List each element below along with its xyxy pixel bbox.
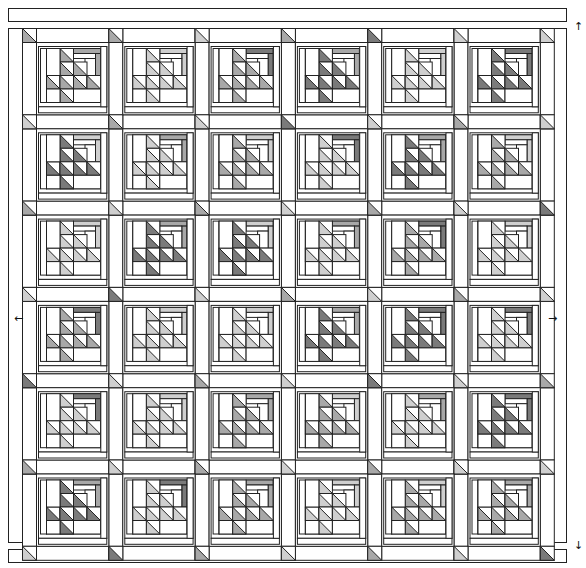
field-cell (133, 49, 147, 76)
field-cell (392, 480, 406, 507)
sashing-vertical (23, 388, 37, 460)
sashing-horizontal (468, 546, 540, 560)
right-log (187, 478, 193, 538)
block-bottom-strip (297, 366, 365, 372)
log-bar-right (96, 140, 101, 162)
right-log (187, 133, 193, 193)
sashing-vertical (454, 129, 468, 201)
left-log (386, 49, 392, 103)
field-cell (47, 307, 61, 334)
field-cell (74, 521, 101, 535)
block-bottom-strip (384, 538, 452, 544)
log-inner (332, 485, 354, 490)
field-cell (219, 135, 233, 162)
field-cell (47, 480, 61, 507)
sashing-vertical (368, 43, 382, 115)
log-bar-top (419, 221, 446, 226)
sashing-vertical (454, 215, 468, 287)
sashing-vertical (195, 215, 209, 287)
sashing-vertical (281, 215, 295, 287)
sashing-vertical (540, 129, 554, 201)
field-cell (478, 480, 492, 507)
field-cell (392, 89, 406, 103)
log-bar-right (96, 54, 101, 76)
right-log (360, 219, 366, 279)
log-bar-top (246, 480, 273, 485)
log-inner (505, 226, 527, 231)
right-log (446, 392, 452, 452)
quilt-layer (9, 9, 567, 563)
sashing-horizontal (37, 201, 109, 215)
log-inner (246, 399, 268, 404)
field-cell (505, 521, 532, 535)
field-cell (305, 521, 319, 535)
log-inner (246, 312, 268, 317)
log-bar-top (160, 480, 187, 485)
field-cell (305, 89, 319, 103)
left-log (386, 221, 392, 275)
log-inner (160, 485, 182, 490)
sashing-vertical (368, 301, 382, 373)
block-bottom-strip (125, 366, 193, 372)
field-cell (246, 434, 273, 448)
log-bar-top (505, 135, 532, 140)
block-bottom-strip (125, 538, 193, 544)
field-cell (505, 175, 532, 189)
field-cell (419, 434, 446, 448)
log-inner (419, 54, 441, 59)
log-inner (332, 312, 354, 317)
field-cell (478, 175, 492, 189)
log-bar-right (441, 312, 446, 334)
field-cell (246, 89, 273, 103)
block-bottom-strip (39, 538, 107, 544)
sashing-horizontal (382, 546, 454, 560)
log-bar-top (246, 221, 273, 226)
block-bottom-strip (384, 193, 452, 199)
log-inner (246, 140, 268, 145)
field-cell (478, 521, 492, 535)
log-bar-top (332, 394, 359, 399)
left-log (41, 394, 47, 448)
field-cell (478, 434, 492, 448)
field-cell (332, 262, 359, 276)
log-bar-top (332, 480, 359, 485)
field-cell (219, 307, 233, 334)
sashing-vertical (454, 388, 468, 460)
log-inner (332, 140, 354, 145)
field-cell (332, 175, 359, 189)
field-cell (133, 135, 147, 162)
field-cell (478, 307, 492, 334)
field-cell (160, 434, 187, 448)
field-cell (133, 521, 147, 535)
sashing-horizontal (123, 546, 195, 560)
block-bottom-strip (211, 279, 279, 285)
block-bottom-strip (384, 279, 452, 285)
sashing-horizontal (468, 201, 540, 215)
field-cell (246, 348, 273, 362)
log-bar-right (441, 399, 446, 421)
sashing-horizontal (209, 201, 281, 215)
field-cell (246, 175, 273, 189)
log-bar-right (96, 399, 101, 421)
sashing-horizontal (37, 460, 109, 474)
sashing-vertical (281, 388, 295, 460)
field-cell (392, 262, 406, 276)
field-cell (160, 348, 187, 362)
left-log (41, 480, 47, 534)
right-log (532, 133, 538, 193)
sashing-vertical (368, 474, 382, 546)
field-cell (305, 348, 319, 362)
log-bar-top (74, 49, 101, 54)
log-bar-top (246, 394, 273, 399)
log-bar-top (332, 135, 359, 140)
field-cell (392, 434, 406, 448)
log-inner (332, 54, 354, 59)
log-bar-right (527, 54, 532, 76)
log-bar-right (527, 485, 532, 507)
log-inner (505, 54, 527, 59)
right-log (187, 219, 193, 279)
sashing-vertical (540, 474, 554, 546)
sashing-horizontal (382, 460, 454, 474)
left-log (386, 394, 392, 448)
field-cell (478, 348, 492, 362)
